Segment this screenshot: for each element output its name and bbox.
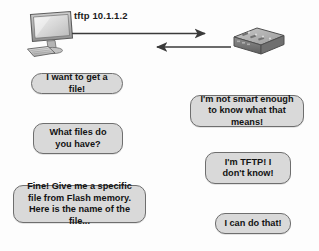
speech-bubble-text: Fine! Give me a specific file from Flash… (21, 181, 138, 227)
speech-bubble-response-2: I'm TFTP! I don't know! (205, 152, 291, 184)
speech-bubble-text: I'm not smart enough to know what that m… (198, 94, 296, 129)
speech-bubble-text: I'm TFTP! I don't know! (213, 157, 283, 180)
network-switch-icon (231, 25, 287, 59)
speech-bubble-text: I want to get a file! (39, 72, 115, 95)
speech-bubble-text: I can do that! (223, 218, 283, 230)
diagram-canvas: tftp 10.1.1.2 I want to get a file! I'm … (0, 0, 319, 251)
speech-bubble-response-3: I can do that! (215, 213, 291, 234)
speech-bubble-request-3: Fine! Give me a specific file from Flash… (13, 185, 146, 223)
speech-bubble-response-1: I'm not smart enough to know what that m… (190, 95, 304, 127)
speech-bubble-request-1: I want to get a file! (31, 73, 123, 94)
speech-bubble-text: What files do you have? (41, 127, 115, 150)
speech-bubble-request-2: What files do you have? (33, 123, 123, 154)
tftp-command-label: tftp 10.1.1.2 (74, 10, 128, 21)
